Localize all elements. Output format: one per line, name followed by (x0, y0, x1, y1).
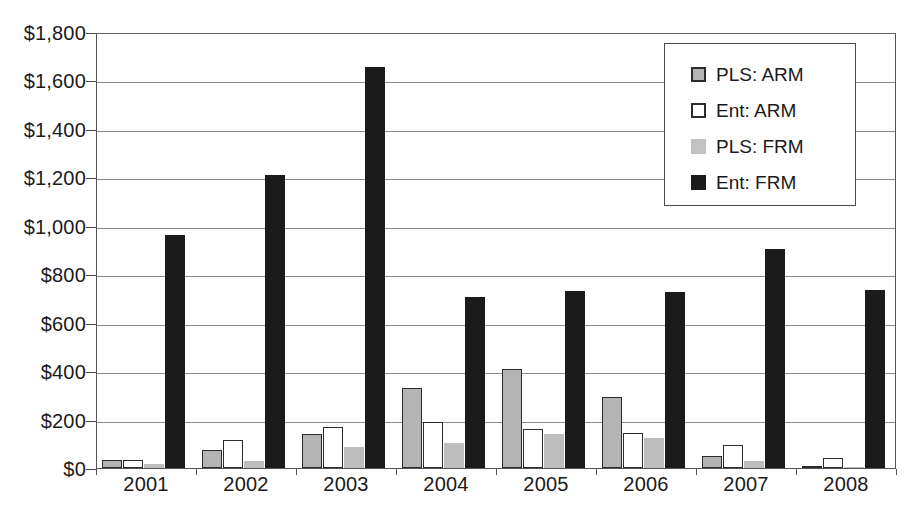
x-axis-tick-label: 2005 (496, 474, 596, 494)
bar-group (497, 34, 597, 468)
bar (565, 291, 585, 468)
bar-group (97, 34, 197, 468)
legend-item: PLS: FRM (665, 128, 855, 164)
bar (802, 466, 822, 468)
x-axis-tick-label: 2008 (796, 474, 896, 494)
bar (302, 434, 322, 468)
bar (744, 461, 764, 468)
y-axis-tick-label: $1,000 (24, 217, 86, 237)
legend-item-label: PLS: ARM (716, 65, 804, 84)
bar (223, 440, 243, 468)
legend-item-label: PLS: FRM (716, 137, 804, 156)
legend-swatch-icon (691, 175, 706, 190)
bar (544, 434, 564, 468)
y-axis-tick-label: $1,800 (24, 23, 86, 43)
y-axis-tick-label: $1,600 (24, 71, 86, 91)
y-axis-tick-label: $800 (41, 265, 86, 285)
bar (144, 464, 164, 468)
y-axis-tick-label: $200 (41, 411, 86, 431)
x-axis-tick (896, 469, 897, 475)
x-axis-tick-label: 2006 (596, 474, 696, 494)
legend-item: PLS: ARM (665, 56, 855, 92)
bar (323, 427, 343, 468)
legend-item: Ent: ARM (665, 92, 855, 128)
legend-swatch-icon (691, 103, 706, 118)
bar (102, 460, 122, 468)
bar (823, 458, 843, 468)
bar (723, 445, 743, 468)
bar (702, 456, 722, 468)
bar (765, 249, 785, 468)
x-axis-tick-label: 2002 (196, 474, 296, 494)
x-axis-tick-label: 2003 (296, 474, 396, 494)
chart-legend: PLS: ARMEnt: ARMPLS: FRMEnt: FRM (664, 43, 856, 206)
y-axis-tick-label: $0 (63, 459, 86, 479)
bar-group (197, 34, 297, 468)
y-axis-tick-label: $1,200 (24, 168, 86, 188)
legend-item-label: Ent: ARM (716, 101, 796, 120)
bar (444, 443, 464, 468)
y-axis-tick-label: $1,400 (24, 120, 86, 140)
bar-group (297, 34, 397, 468)
y-axis-tick-label: $400 (41, 362, 86, 382)
bar (623, 433, 643, 468)
bar (344, 447, 364, 468)
legend-swatch-icon (691, 139, 706, 154)
bar (844, 467, 864, 469)
bar (402, 388, 422, 468)
bar (265, 175, 285, 468)
legend-swatch-icon (691, 67, 706, 82)
bar (202, 450, 222, 468)
x-axis-tick-label: 2004 (396, 474, 496, 494)
bar (165, 235, 185, 468)
bar (423, 422, 443, 468)
bar (123, 460, 143, 468)
bar (244, 461, 264, 468)
bar (644, 438, 664, 468)
legend-item: Ent: FRM (665, 164, 855, 200)
y-axis: $0$200$400$600$800$1,000$1,200$1,400$1,6… (0, 0, 96, 523)
x-axis-tick-label: 2007 (696, 474, 796, 494)
bar (365, 67, 385, 468)
bar-group (397, 34, 497, 468)
bar (602, 397, 622, 468)
bar (465, 297, 485, 468)
legend-item-label: Ent: FRM (716, 173, 796, 192)
bar (523, 429, 543, 468)
y-axis-tick-label: $600 (41, 314, 86, 334)
bar (865, 290, 885, 468)
bar (502, 369, 522, 468)
bar-chart: $0$200$400$600$800$1,000$1,200$1,400$1,6… (0, 0, 908, 523)
x-axis: 20012002200320042005200620072008 (96, 474, 896, 514)
bar (665, 292, 685, 468)
x-axis-tick-label: 2001 (96, 474, 196, 494)
